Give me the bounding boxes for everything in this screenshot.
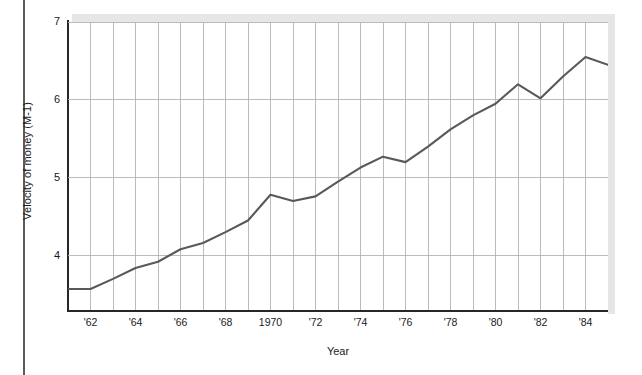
y-axis-label: Velocity of money (M-1) <box>21 71 33 251</box>
x-tick-label-y78: '78 <box>444 316 458 328</box>
x-tick-label-y74: '74 <box>354 316 368 328</box>
x-tick-label-y72: '72 <box>309 316 323 328</box>
x-axis-label: Year <box>68 345 608 357</box>
y-tick-label-6: 6 <box>42 93 60 105</box>
x-tick-label-y62: '62 <box>84 316 98 328</box>
plot-shadow-top <box>72 14 612 22</box>
vertical-gridlines <box>91 22 609 310</box>
x-tick-label-y64: '64 <box>129 316 143 328</box>
x-tick-label-y80: '80 <box>489 316 503 328</box>
x-tick-label-y76: '76 <box>399 316 413 328</box>
x-tick-label-y84: '84 <box>579 316 593 328</box>
chart-svg <box>68 22 608 310</box>
plot-shadow-right <box>608 14 615 314</box>
y-tick-label-4: 4 <box>42 249 60 261</box>
plot-area <box>68 22 608 310</box>
x-tick-label-1970: 1970 <box>259 316 282 328</box>
x-axis-line <box>67 310 608 312</box>
y-tick-label-5: 5 <box>42 171 60 183</box>
x-tick-label-y82: '82 <box>534 316 548 328</box>
x-tick-label-y68: '68 <box>219 316 233 328</box>
chart-figure: Velocity of money (M-1) Year 4567 '62'64… <box>0 0 642 375</box>
y-tick-label-7: 7 <box>42 15 60 27</box>
x-tick-label-y66: '66 <box>174 316 188 328</box>
